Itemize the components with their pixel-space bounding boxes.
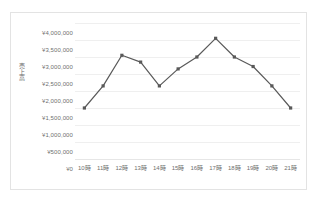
y-axis-tick-label: ¥1,500,000 bbox=[23, 115, 73, 121]
line-series bbox=[75, 23, 300, 159]
gridline bbox=[75, 159, 300, 160]
y-axis-tick-label: ¥1,000,000 bbox=[23, 132, 73, 138]
data-point-marker bbox=[177, 67, 180, 70]
x-axis-tick-label: 15時 bbox=[172, 163, 185, 172]
x-axis-tick-label: 10時 bbox=[78, 163, 91, 172]
data-point-marker bbox=[158, 84, 161, 87]
data-point-marker bbox=[214, 37, 217, 40]
x-axis-tick-label: 11時 bbox=[97, 163, 109, 172]
data-point-marker bbox=[83, 106, 86, 109]
y-axis-tick-labels: ¥0¥500,000¥1,000,000¥1,500,000¥2,000,000… bbox=[23, 23, 73, 159]
y-axis-tick-label: ¥3,000,000 bbox=[23, 64, 73, 70]
x-axis-tick-label: 14時 bbox=[153, 163, 166, 172]
series-line bbox=[84, 38, 290, 108]
x-axis-tick-label: 12時 bbox=[116, 163, 129, 172]
data-point-marker bbox=[139, 61, 142, 64]
y-axis-tick-label: ¥500,000 bbox=[23, 149, 73, 155]
x-axis-tick-label: 16時 bbox=[191, 163, 204, 172]
data-point-marker bbox=[270, 84, 273, 87]
x-axis-tick-label: 13時 bbox=[134, 163, 147, 172]
data-point-marker bbox=[233, 55, 236, 58]
x-axis-tick-label: 19時 bbox=[247, 163, 260, 172]
plot-area bbox=[75, 23, 300, 159]
x-axis-tick-label: 20時 bbox=[266, 163, 279, 172]
y-axis-tick-label: ¥3,500,000 bbox=[23, 47, 73, 53]
data-point-marker bbox=[195, 55, 198, 58]
x-axis-tick-label: 18時 bbox=[228, 163, 241, 172]
data-point-marker bbox=[289, 106, 292, 109]
y-axis-tick-label: ¥0 bbox=[23, 166, 73, 172]
y-axis-tick-label: ¥4,000,000 bbox=[23, 30, 73, 36]
x-axis-tick-label: 17時 bbox=[209, 163, 222, 172]
data-point-marker bbox=[252, 65, 255, 68]
data-point-marker bbox=[102, 84, 105, 87]
y-axis-tick-label: ¥2,500,000 bbox=[23, 81, 73, 87]
x-axis-tick-label: 21時 bbox=[284, 163, 297, 172]
chart-card: 売上高 ¥0¥500,000¥1,000,000¥1,500,000¥2,000… bbox=[10, 12, 307, 190]
y-axis-tick-label: ¥2,000,000 bbox=[23, 98, 73, 104]
data-point-marker bbox=[120, 54, 123, 57]
x-axis-tick-labels: 10時11時12時13時14時15時16時17時18時19時20時21時 bbox=[75, 163, 300, 177]
